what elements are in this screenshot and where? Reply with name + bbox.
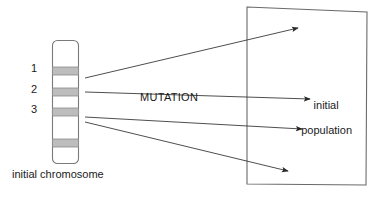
mutation-arrow-3 — [85, 117, 302, 129]
initial-population-label: initial population — [289, 86, 351, 149]
band-label-3: 3 — [31, 103, 37, 116]
diagram-canvas: 1 2 3 initial chromosome MUTATION initia… — [0, 0, 378, 197]
chromosome-band-4 — [53, 139, 79, 147]
chromosome-band-1 — [53, 67, 79, 75]
mutation-arrow-1 — [85, 28, 298, 78]
chromosome-band-2 — [53, 88, 79, 96]
band-label-1: 1 — [31, 62, 37, 75]
mutation-label: MUTATION — [140, 91, 198, 104]
initial-population-label-line-1: initial — [314, 99, 339, 111]
initial-population-label-line-2: population — [301, 124, 352, 136]
band-label-2: 2 — [31, 83, 37, 96]
mutation-arrow-4 — [85, 122, 288, 171]
chromosome-band-3 — [53, 108, 79, 116]
initial-chromosome-caption: initial chromosome — [12, 168, 104, 181]
